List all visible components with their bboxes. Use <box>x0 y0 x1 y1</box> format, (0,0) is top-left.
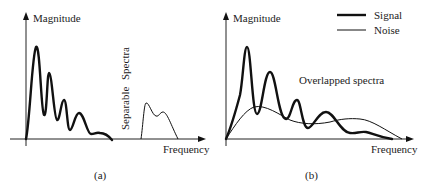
panel-a-x-axis-label: Frequency <box>163 144 209 155</box>
panel-a-y-arrow-icon <box>23 12 29 20</box>
panel-a-annotation-spectra: Spectra <box>120 47 131 80</box>
panel-b-y-axis-label: Magnitude <box>233 13 281 24</box>
panel-a-annotation-separable: Separable <box>120 87 131 130</box>
legend-noise-label: Noise <box>374 25 400 36</box>
panel-a-noise-curve <box>141 103 178 139</box>
panel-b-signal-curve <box>226 47 392 139</box>
legend-signal-label: Signal <box>374 10 402 21</box>
panel-b-y-arrow-icon <box>223 12 229 20</box>
panel-b-caption: (b) <box>305 170 318 181</box>
panel-b-x-arrow-icon <box>406 136 414 142</box>
panel-a-x-arrow-icon <box>198 136 206 142</box>
figure-canvas <box>0 0 423 191</box>
panel-a-caption: (a) <box>94 170 106 181</box>
panel-a-axes <box>10 18 200 146</box>
panel-a-y-axis-label: Magnitude <box>33 13 81 24</box>
panel-b-x-axis-label: Frequency <box>371 144 417 155</box>
panel-b-annotation: Overlapped spectra <box>299 75 384 86</box>
panel-a-signal-curve <box>26 47 112 140</box>
